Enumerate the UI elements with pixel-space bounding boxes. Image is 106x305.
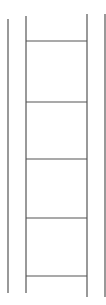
ladder-diagram xyxy=(0,0,106,305)
